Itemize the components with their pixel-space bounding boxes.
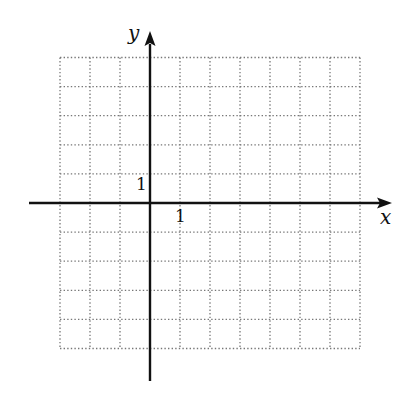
coordinate-plane: y x 1 1 [0, 0, 413, 405]
y-unit-label: 1 [136, 174, 147, 194]
x-unit-label: 1 [175, 206, 186, 226]
y-axis-arrow-icon [145, 31, 156, 46]
x-axis-label: x [380, 205, 391, 229]
y-axis-label: y [127, 21, 140, 45]
